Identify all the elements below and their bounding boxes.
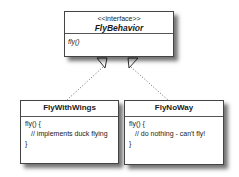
class-header: FlyNoWay — [125, 101, 223, 117]
class-name: FlyNoWay — [125, 101, 223, 115]
class-header: FlyWithWings — [21, 101, 118, 117]
interface-flybehavior: <<interface>> FlyBehavior fly() — [64, 11, 174, 57]
interface-header: <<interface>> FlyBehavior — [65, 12, 173, 34]
triangle-arrow-icon — [97, 58, 107, 68]
code-line: } — [25, 139, 114, 149]
interface-name: FlyBehavior — [65, 23, 173, 33]
code-comment: // do nothing - can't fly! — [129, 129, 219, 139]
class-body: fly() { // implements duck flying } — [21, 117, 118, 151]
code-comment: // implements duck flying — [25, 129, 114, 139]
class-flynoway: FlyNoWay fly() { // do nothing - can't f… — [124, 100, 224, 165]
interface-method: fly() — [65, 34, 173, 49]
triangle-arrow-icon — [128, 58, 138, 68]
code-line: } — [129, 139, 219, 149]
class-body: fly() { // do nothing - can't fly! } — [125, 117, 223, 151]
realization-line-flywithwings — [67, 67, 103, 100]
code-line: fly() { — [129, 119, 219, 129]
code-line: fly() { — [25, 119, 114, 129]
class-name: FlyWithWings — [21, 101, 118, 115]
class-flywithwings: FlyWithWings fly() { // implements duck … — [20, 100, 119, 164]
stereotype-label: <<interface>> — [65, 12, 173, 23]
realization-line-flynoway — [131, 67, 168, 100]
